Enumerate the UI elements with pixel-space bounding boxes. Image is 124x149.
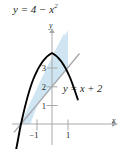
curve-equation-label: y = 4 − x2 xyxy=(13,4,58,15)
y-axis-name: y xyxy=(49,22,53,30)
x-tick-label-1: 1 xyxy=(62,131,74,140)
line-equation-label: y = x + 2 xyxy=(63,84,102,95)
x-axis-name: x xyxy=(112,117,116,125)
curve-equation-exponent: 2 xyxy=(54,2,57,9)
x-tick-label--1: −1 xyxy=(28,131,40,140)
y-tick-label-1: 1 xyxy=(34,102,46,111)
figure-container: y = 4 − x2 y = x + 2 y x 3 2 1 −1 1 xyxy=(0,0,124,149)
plot-area xyxy=(0,0,124,149)
y-tick-label-3: 3 xyxy=(34,64,46,73)
y-tick-label-2: 2 xyxy=(34,83,46,92)
curve-equation-text: y = 4 − x xyxy=(13,3,54,15)
